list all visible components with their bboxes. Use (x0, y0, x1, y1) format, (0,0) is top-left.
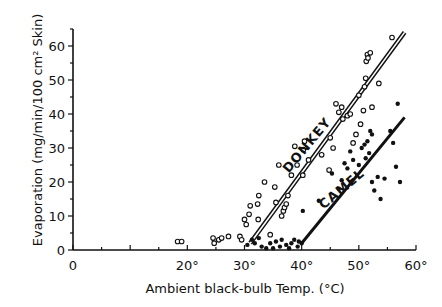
y-tick-label: 40 (48, 107, 65, 122)
camel-point (259, 244, 263, 248)
camel-point (250, 238, 254, 242)
donkey-point (272, 185, 277, 190)
evaporation-scatter-chart: 020°30°40°50°60°0102030405060 DONKEYCAME… (0, 0, 442, 307)
camel-point (330, 171, 334, 175)
camel-point (365, 139, 369, 143)
camel-point (278, 244, 282, 248)
camel-point (362, 142, 366, 146)
donkey-point (284, 202, 289, 207)
camel-point (295, 244, 299, 248)
camel-point (257, 236, 261, 240)
donkey-point (366, 56, 371, 61)
camel-point (382, 176, 386, 180)
donkey-point (226, 234, 231, 239)
camel-point (394, 165, 398, 169)
x-tick-label: 60° (404, 258, 427, 273)
donkey-point (341, 117, 346, 122)
regression-lines (250, 32, 404, 243)
camel-point (268, 241, 272, 245)
donkey-point (358, 122, 363, 127)
camel-point (378, 197, 382, 201)
donkey-point (370, 105, 375, 110)
x-tick-label: 0 (69, 258, 77, 273)
camel-point (301, 209, 305, 213)
donkey-point (337, 110, 342, 115)
donkey-point (339, 105, 344, 110)
donkey-point (319, 153, 324, 158)
donkey-point (328, 136, 333, 141)
series-labels: DONKEYCAMEL (279, 115, 367, 212)
x-tick-label: 30° (233, 258, 256, 273)
camel-point (284, 243, 288, 247)
donkey-point (357, 93, 362, 98)
donkey-point (368, 51, 373, 56)
donkey-point (362, 85, 367, 90)
donkey-point (377, 81, 382, 86)
donkey-point (286, 193, 291, 198)
donkey-point (247, 212, 252, 217)
camel-point (351, 158, 355, 162)
donkey-point (331, 146, 336, 151)
camel-point (368, 129, 372, 133)
donkey-point (242, 217, 247, 222)
y-tick-label: 50 (48, 73, 65, 88)
donkey-point (239, 238, 244, 243)
camel-point (271, 246, 275, 250)
camel-point (264, 246, 268, 250)
camel-point (289, 241, 293, 245)
donkey-point (262, 180, 267, 185)
donkey-point (351, 141, 356, 146)
y-tick-label: 10 (48, 209, 65, 224)
donkey-point (244, 222, 249, 227)
donkey-point (219, 236, 224, 241)
camel-point (388, 129, 392, 133)
camel-point (391, 141, 395, 145)
donkey-point (248, 204, 253, 209)
camel-point (348, 149, 352, 153)
donkey-point (268, 232, 273, 237)
camel-point (359, 146, 363, 150)
camel-point (287, 246, 291, 250)
donkey-point (279, 214, 284, 219)
y-axis-label: Evaporation (mg/min/100 cm² Skin) (30, 14, 45, 247)
x-tick-label: 20° (176, 258, 199, 273)
camel-point (279, 238, 283, 242)
y-tick-label: 30 (48, 141, 65, 156)
y-tick-label: 60 (48, 39, 65, 54)
donkey-point (306, 158, 311, 163)
y-tick-label: 20 (48, 175, 65, 190)
camel-point (274, 239, 278, 243)
donkey-point (348, 112, 353, 117)
camel-point (292, 238, 296, 242)
camel-point (367, 151, 371, 155)
camel-point (345, 166, 349, 170)
camel-point (253, 241, 257, 245)
camel-point (370, 180, 374, 184)
donkey-point (256, 217, 261, 222)
donkey-point (334, 102, 339, 107)
donkey-point (301, 173, 306, 178)
data-points (175, 35, 402, 250)
donkey-point (390, 35, 395, 40)
camel-point (375, 175, 379, 179)
donkey-point (363, 76, 368, 81)
donkey-point (255, 202, 260, 207)
camel-label: CAMEL (316, 165, 368, 212)
camel-point (245, 243, 249, 247)
camel-point (363, 156, 367, 160)
donkey-point (274, 200, 279, 205)
donkey-point (211, 236, 216, 241)
camel-point (396, 102, 400, 106)
donkey-point (354, 132, 359, 137)
donkey-point (361, 108, 366, 113)
donkey-point (256, 193, 261, 198)
camel-point (372, 188, 376, 192)
camel-point (342, 161, 346, 165)
y-tick-label: 0 (57, 243, 65, 258)
donkey-point (212, 241, 217, 246)
x-axis-label: Ambient black-bulb Temp. (°C) (145, 281, 344, 296)
x-tick-label: 50° (347, 258, 370, 273)
donkey-point (179, 239, 184, 244)
x-tick-label: 40° (290, 258, 313, 273)
camel-point (398, 180, 402, 184)
